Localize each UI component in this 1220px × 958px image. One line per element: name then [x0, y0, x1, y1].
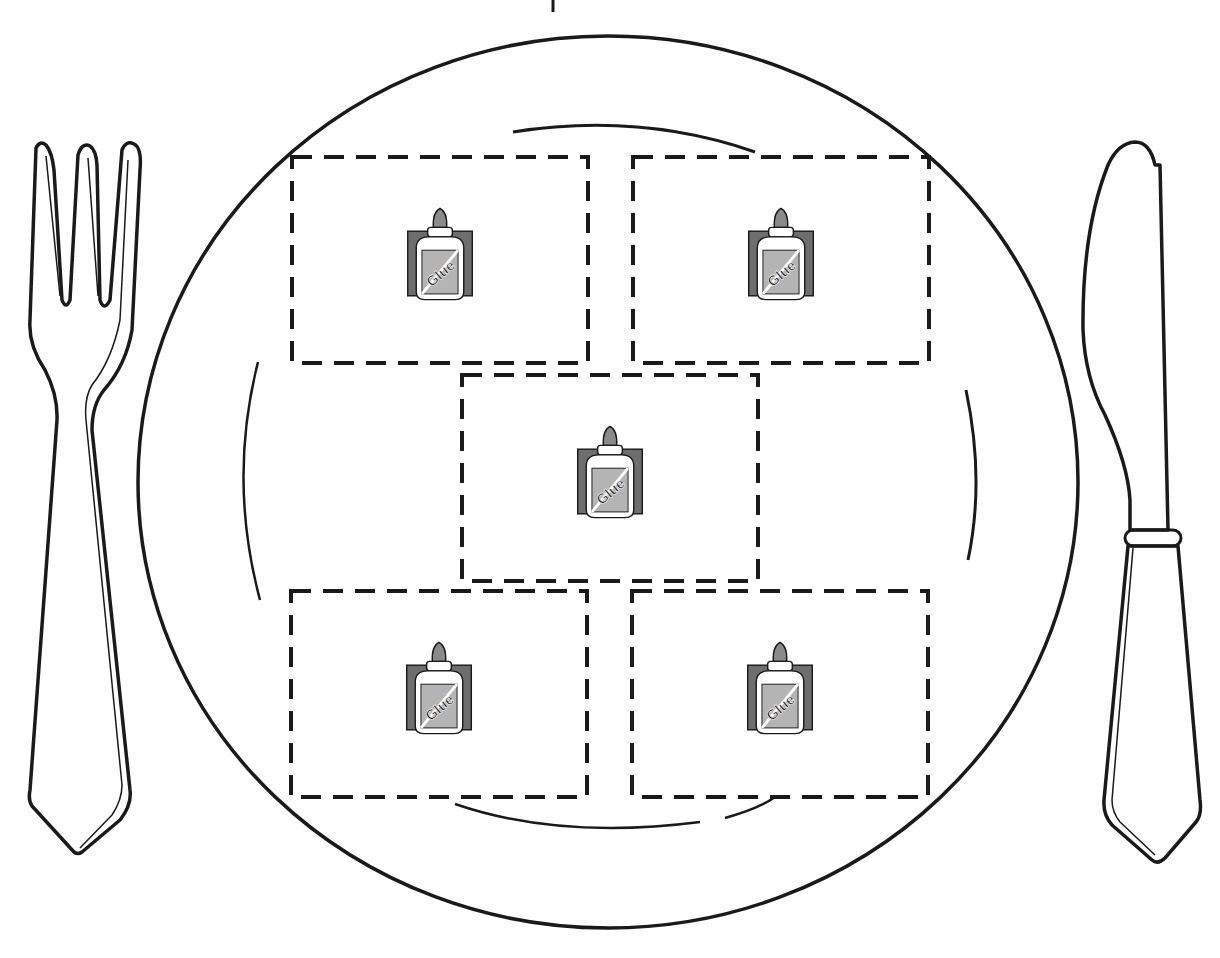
knife-icon — [1083, 142, 1201, 862]
glue-zone-top-left: Glue — [292, 157, 588, 363]
plate-inner-rim-right — [966, 390, 976, 560]
plate-inner-rim-top — [513, 125, 755, 152]
glue-bottle-icon: Glue — [407, 642, 472, 733]
plate-inner-rim-left — [243, 362, 260, 600]
glue-zone-bottom-right: Glue — [632, 591, 928, 797]
worksheet-canvas: GlueGlueGlueGlueGlue — [0, 0, 1220, 958]
glue-zone-center: Glue — [462, 375, 758, 581]
glue-bottle-icon: Glue — [408, 208, 473, 299]
fork-icon — [29, 143, 140, 854]
glue-zones: GlueGlueGlueGlueGlue — [291, 157, 929, 797]
glue-zone-top-right: Glue — [633, 157, 929, 363]
plate-inner-rim-bottom — [455, 804, 700, 828]
glue-bottle-icon: Glue — [748, 642, 813, 733]
glue-zone-bottom-left: Glue — [291, 591, 587, 797]
plate-inner-rim-bottom-right — [725, 797, 775, 818]
glue-bottle-icon: Glue — [578, 426, 643, 517]
glue-bottle-icon: Glue — [749, 208, 814, 299]
